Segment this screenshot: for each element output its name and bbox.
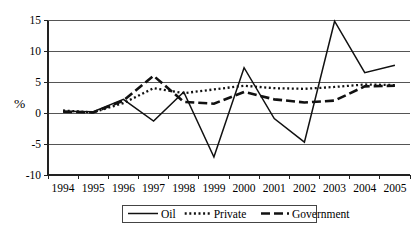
- y-axis-title: %: [14, 96, 25, 111]
- y-tick-label: 10: [30, 45, 42, 57]
- series-line-government: [63, 76, 395, 113]
- legend-label-oil[interactable]: Oil: [161, 208, 176, 220]
- x-tick-label: 2004: [353, 182, 376, 194]
- x-tick-label: 2000: [233, 182, 256, 194]
- y-tick-label: 15: [30, 14, 42, 26]
- x-tick-label: 1996: [112, 182, 135, 194]
- chart-figure: 151050-5-10%1994199519961997199819992000…: [0, 0, 418, 243]
- x-tick-label: 1998: [172, 182, 195, 194]
- x-tick-label: 2003: [323, 182, 346, 194]
- x-tick-label: 1994: [52, 182, 75, 194]
- x-tick-label: 1995: [82, 182, 105, 194]
- series-group: [63, 21, 395, 157]
- y-tick-label: -10: [26, 169, 42, 181]
- y-tick-label: 5: [35, 76, 41, 88]
- x-tick-label: 1999: [202, 182, 225, 194]
- legend-label-private[interactable]: Private: [214, 208, 247, 220]
- legend-label-government[interactable]: Government: [292, 208, 350, 220]
- x-tick-label: 1997: [142, 182, 165, 194]
- x-axis-ticks: 1994199519961997199819992000200120022003…: [48, 175, 410, 194]
- y-tick-label: 0: [35, 107, 41, 119]
- line-chart: 151050-5-10%1994199519961997199819992000…: [0, 0, 418, 243]
- x-tick-label: 2001: [263, 182, 286, 194]
- x-tick-label: 2005: [383, 182, 406, 194]
- x-tick-label: 2002: [293, 182, 316, 194]
- series-line-oil: [63, 21, 395, 157]
- legend: OilPrivateGovernment: [122, 205, 350, 222]
- y-tick-label: -5: [31, 138, 41, 150]
- y-gridlines: 151050-5-10: [26, 14, 410, 181]
